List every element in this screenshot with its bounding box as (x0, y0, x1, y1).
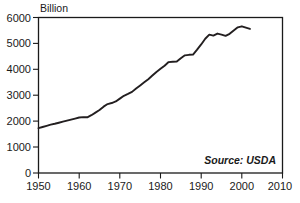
y-tick-label-3000: 3000 (7, 89, 31, 101)
x-tick-label-1950: 1950 (26, 180, 50, 192)
x-tick-label-2010: 2010 (268, 180, 292, 192)
y-axis-tick-labels: 6000 5000 4000 3000 2000 1000 0 (7, 12, 31, 180)
line-chart: Billion 6000 5000 4000 3000 2000 1000 0 (0, 0, 300, 203)
x-tick-label-1960: 1960 (67, 180, 91, 192)
data-series-line (39, 26, 250, 128)
y-tick-label-2000: 2000 (7, 115, 31, 127)
y-axis-ticks (33, 18, 39, 174)
x-tick-label-1990: 1990 (189, 180, 213, 192)
x-tick-label-1970: 1970 (108, 180, 132, 192)
y-tick-label-5000: 5000 (7, 37, 31, 49)
y-tick-label-0: 0 (25, 167, 31, 179)
y-tick-label-6000: 6000 (7, 12, 31, 24)
x-tick-label-1980: 1980 (148, 180, 172, 192)
x-axis-tick-labels: 1950 1960 1970 1980 1990 2000 2010 (26, 180, 292, 192)
source-annotation: Source: USDA (204, 154, 276, 166)
chart-figure: Billion 6000 5000 4000 3000 2000 1000 0 (0, 0, 300, 203)
y-axis-title: Billion (40, 2, 68, 14)
x-tick-label-2000: 2000 (230, 180, 254, 192)
x-axis-ticks (39, 173, 283, 179)
y-tick-label-1000: 1000 (7, 141, 31, 153)
plot-frame (39, 18, 283, 174)
y-tick-label-4000: 4000 (7, 63, 31, 75)
